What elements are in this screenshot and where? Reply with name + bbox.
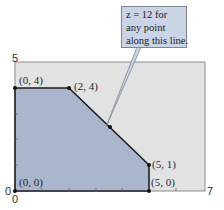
y-tick-label-0: 0 — [5, 185, 11, 197]
annotation-callout: z = 12 for any point along this line. — [121, 6, 187, 48]
vertex-label-5-1: (5, 1) — [152, 158, 176, 171]
feasible-region-chart: (0, 4) (2, 4) (5, 1) (5, 0) (0, 0) 5 0 0… — [0, 0, 224, 210]
callout-line-3: along this line. — [126, 34, 186, 47]
vertex-label-0-4: (0, 4) — [19, 74, 43, 87]
vertex-label-0-0: (0, 0) — [19, 176, 43, 189]
callout-line-2: any point — [126, 21, 186, 34]
x-tick-label-0: 0 — [12, 193, 18, 205]
vertex-label-2-4: (2, 4) — [74, 80, 98, 93]
y-tick-label-5: 5 — [12, 52, 18, 64]
x-tick-label-7: 7 — [207, 185, 213, 197]
callout-line-1: z = 12 for — [126, 8, 186, 21]
vertex-label-5-0: (5, 0) — [151, 176, 175, 189]
